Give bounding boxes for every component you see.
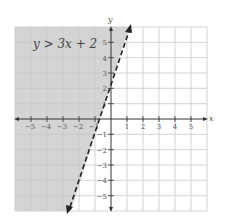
x-tick-label: −5 (25, 123, 35, 131)
x-tick-label: −4 (41, 123, 52, 131)
x-tick-label: 1 (125, 123, 129, 131)
x-tick-label: −3 (57, 123, 67, 131)
y-tick-label: 5 (103, 39, 107, 47)
y-tick-label: 3 (103, 70, 107, 78)
y-tick-label: 2 (103, 85, 107, 93)
y-axis-label: y (107, 15, 113, 24)
y-tick-label: −2 (97, 147, 107, 155)
y-tick-label: −3 (97, 162, 107, 170)
y-tick-label: −4 (97, 177, 108, 185)
y-tick-label: 4 (103, 55, 108, 63)
x-tick-label: 3 (157, 123, 161, 131)
y-tick-label: −1 (97, 131, 107, 139)
x-tick-label: 5 (189, 123, 193, 131)
x-tick-labels: −5 −4 −3 −2 −1 1 2 3 4 5 (25, 123, 193, 131)
x-axis-label: x (209, 114, 214, 123)
x-tick-label: 4 (173, 123, 178, 131)
inequality-label: y > 3x + 2 (32, 37, 97, 51)
y-tick-label: −5 (97, 193, 107, 201)
coordinate-plane: −5 −4 −3 −2 −1 1 2 3 4 5 5 4 3 2 1 −1 −2… (0, 0, 228, 224)
x-tick-label: 2 (141, 123, 145, 131)
x-tick-label: −2 (73, 123, 83, 131)
